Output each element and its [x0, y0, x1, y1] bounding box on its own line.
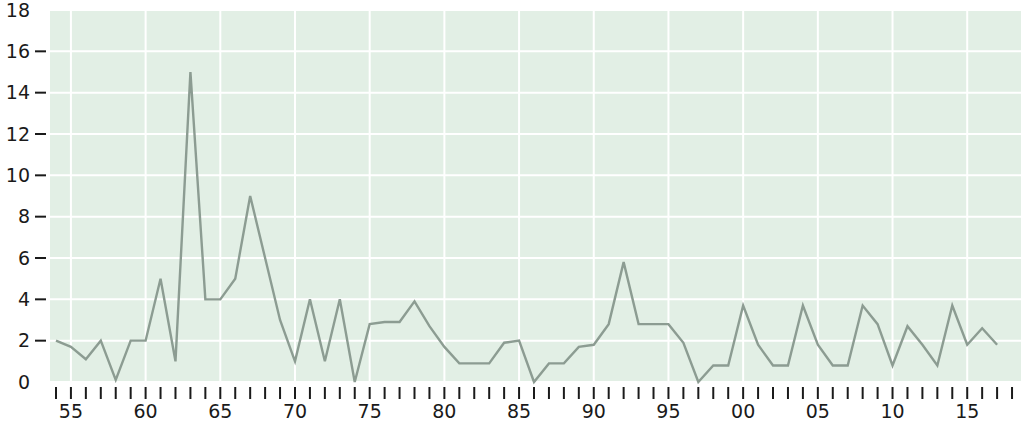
plot-background-group — [50, 10, 1021, 382]
y-axis-tick-label: 14 — [6, 81, 30, 103]
x-axis-tick-label: 95 — [656, 400, 680, 422]
y-axis-tick-label: 18 — [6, 0, 30, 21]
plot-area-background — [50, 10, 1021, 382]
x-axis-tick-label: 80 — [432, 400, 456, 422]
x-axis-tick-label: 90 — [582, 400, 606, 422]
x-axis-tick-label: 60 — [134, 400, 158, 422]
y-axis-tick-label: 12 — [6, 123, 30, 145]
y-axis-tick-label: 6 — [18, 247, 30, 269]
x-axis-tick-label: 75 — [358, 400, 382, 422]
x-axis-tick-label: 55 — [59, 400, 83, 422]
y-axis-ticks — [35, 51, 46, 340]
x-axis-tick-label: 70 — [283, 400, 307, 422]
x-axis-ticks — [56, 387, 1012, 399]
line-chart: 024681012141618 556065707580859095000510… — [0, 0, 1021, 434]
y-axis-tick-label: 16 — [6, 40, 30, 62]
y-axis-tick-label: 8 — [18, 205, 30, 227]
y-axis-tick-labels: 024681012141618 — [6, 0, 30, 393]
y-axis-tick-label: 10 — [6, 164, 30, 186]
x-axis-tick-label: 05 — [806, 400, 830, 422]
x-axis-tick-label: 85 — [507, 400, 531, 422]
x-axis-tick-labels: 55606570758085909500051015 — [59, 400, 979, 422]
x-axis-tick-label: 15 — [955, 400, 979, 422]
x-axis-tick-label: 10 — [880, 400, 904, 422]
y-axis-tick-label: 0 — [18, 371, 30, 393]
x-axis-tick-label: 00 — [731, 400, 755, 422]
x-axis-tick-label: 65 — [208, 400, 232, 422]
y-axis-tick-label: 2 — [18, 329, 30, 351]
y-axis-tick-label: 4 — [18, 288, 30, 310]
chart-canvas: 024681012141618 556065707580859095000510… — [0, 0, 1021, 434]
